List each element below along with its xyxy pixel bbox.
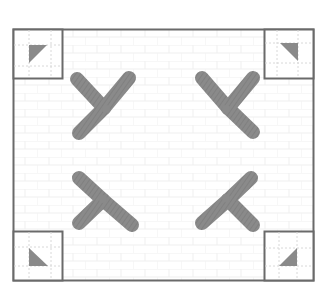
corner-bottom-left: [14, 232, 63, 281]
corner-bottom-right: [265, 232, 314, 281]
quilt-diagram: [0, 0, 333, 292]
corner-top-left: [14, 30, 63, 79]
corner-top-right: [265, 30, 314, 79]
